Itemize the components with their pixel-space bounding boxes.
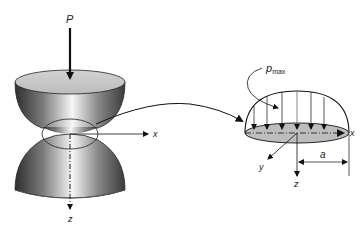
dimension-label-a: a	[320, 149, 326, 160]
right-z-axis-label: z	[293, 179, 299, 189]
right-y-axis-label: y	[258, 162, 264, 172]
pmax-label: pmax	[265, 62, 286, 75]
left-x-axis-label: x	[152, 129, 158, 139]
upper-sphere-neck	[42, 127, 98, 134]
load-label: P	[66, 13, 74, 25]
contact-diagram: P x z pmax x y z	[0, 0, 363, 236]
right-x-axis-label: x	[349, 128, 355, 138]
left-sphere-assembly: P x z	[15, 13, 158, 224]
pmax-label-sub: max	[272, 68, 286, 75]
pmax-label-main: p	[265, 62, 272, 74]
pressure-distribution: pmax x y z a	[245, 62, 355, 189]
left-z-axis-label: z	[67, 214, 73, 224]
